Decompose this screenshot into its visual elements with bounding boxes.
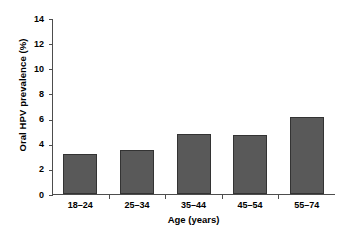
x-axis-title: Age (years) xyxy=(52,214,335,226)
x-tick-label: 25–34 xyxy=(109,200,166,211)
bar xyxy=(120,150,154,194)
y-axis-line xyxy=(52,19,53,195)
y-tick-label: 2 xyxy=(26,165,44,174)
y-tick-mark xyxy=(49,145,53,146)
y-tick-mark xyxy=(49,44,53,45)
bar xyxy=(177,134,211,194)
y-tick-mark xyxy=(49,94,53,95)
y-tick-label: 10 xyxy=(26,65,44,74)
bar xyxy=(290,117,324,194)
y-tick-mark xyxy=(49,170,53,171)
bar-chart-figure: Oral HPV prevalence (%) 02468101214 18–2… xyxy=(0,0,346,235)
y-tick-mark xyxy=(49,69,53,70)
y-tick-mark xyxy=(49,195,53,196)
y-tick-label: 4 xyxy=(26,140,44,149)
y-tick-label: 8 xyxy=(26,90,44,99)
x-tick-mark xyxy=(278,195,279,199)
x-tick-label: 45–54 xyxy=(222,200,279,211)
y-tick-mark xyxy=(49,120,53,121)
plot-area xyxy=(52,19,335,195)
y-tick-mark xyxy=(49,19,53,20)
x-tick-label: 35–44 xyxy=(165,200,222,211)
y-axis-tick-labels: 02468101214 xyxy=(26,0,44,235)
x-tick-mark xyxy=(109,195,110,199)
bar xyxy=(63,154,97,194)
x-tick-mark xyxy=(165,195,166,199)
y-tick-label: 12 xyxy=(26,40,44,49)
y-tick-label: 0 xyxy=(26,191,44,200)
x-tick-label: 55–74 xyxy=(278,200,335,211)
x-axis-tick-labels: 18–2425–3435–4445–5455–74 xyxy=(52,200,335,214)
x-tick-label: 18–24 xyxy=(52,200,109,211)
y-tick-label: 14 xyxy=(26,15,44,24)
y-tick-label: 6 xyxy=(26,115,44,124)
x-tick-mark xyxy=(222,195,223,199)
bar xyxy=(233,135,267,194)
x-axis-line xyxy=(52,194,335,195)
